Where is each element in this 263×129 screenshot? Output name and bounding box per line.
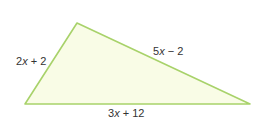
constant-term: + 12: [120, 107, 145, 119]
constant-term: − 2: [165, 45, 184, 57]
constant-term: + 2: [28, 55, 47, 67]
side-label-top-right: 5x − 2: [153, 46, 183, 57]
side-label-left: 2x + 2: [16, 56, 46, 67]
side-label-bottom: 3x + 12: [108, 108, 144, 119]
triangle-shape: [25, 23, 250, 104]
